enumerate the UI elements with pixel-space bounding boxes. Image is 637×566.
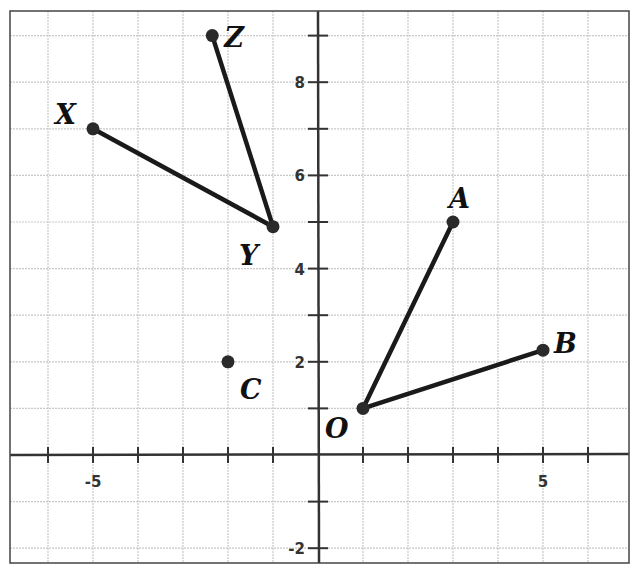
point-z [206, 29, 219, 42]
y-tick-label: 6 [295, 167, 305, 185]
point-label-a: A [446, 183, 470, 214]
y-axis [318, 11, 319, 563]
y-tick-label: 4 [295, 261, 305, 279]
coordinate-plane: -558642-2 XYZCOAB [0, 0, 637, 566]
x-tick-label: -5 [85, 473, 102, 491]
point-o [357, 402, 370, 415]
point-c [222, 355, 235, 368]
axes [10, 11, 629, 563]
point-label-y: Y [239, 240, 261, 271]
point-label-o: O [325, 413, 349, 444]
y-tick-label: 2 [295, 354, 305, 372]
point-y [267, 220, 280, 233]
point-label-c: C [240, 374, 262, 405]
point-label-b: B [553, 328, 577, 359]
y-tick-label: 8 [295, 74, 305, 92]
point-a [447, 216, 460, 229]
point-x [87, 122, 100, 135]
y-tick-label: -2 [288, 540, 305, 558]
point-label-z: Z [223, 22, 245, 53]
x-tick-label: 5 [538, 473, 548, 491]
point-b [537, 344, 550, 357]
point-label-x: X [53, 99, 77, 130]
